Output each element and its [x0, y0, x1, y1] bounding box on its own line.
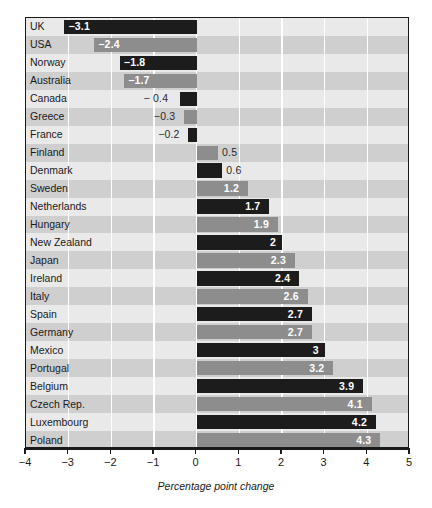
x-tick — [195, 448, 197, 454]
bar — [197, 433, 380, 447]
value-label: −3.1 — [68, 21, 90, 32]
bar-chart-figure: UKUSANorwayAustraliaCanadaGreeceFranceFi… — [0, 0, 432, 508]
value-label: 0.5 — [222, 147, 237, 158]
bar — [197, 146, 218, 160]
x-tick — [366, 448, 368, 454]
category-label: Netherlands — [30, 201, 87, 212]
value-label: 2.7 — [288, 309, 303, 320]
bar — [197, 181, 248, 195]
category-label: France — [30, 129, 63, 140]
category-label: Italy — [30, 291, 49, 302]
value-label: −1.7 — [128, 75, 150, 86]
x-tick-label: 0 — [193, 456, 199, 468]
category-label: UK — [30, 21, 45, 32]
value-label: −1.8 — [124, 57, 146, 68]
x-tick-label: −1 — [147, 456, 160, 468]
row-band — [26, 108, 408, 126]
x-tick-label: 3 — [321, 456, 327, 468]
value-label: 3.9 — [339, 381, 354, 392]
value-label: 2.3 — [271, 255, 286, 266]
row-band — [26, 54, 408, 72]
value-label: 3.2 — [309, 363, 324, 374]
category-label: Canada — [30, 93, 67, 104]
gridline — [367, 18, 369, 447]
category-label: Mexico — [30, 345, 63, 356]
x-tick — [323, 448, 325, 454]
row-band — [26, 36, 408, 54]
value-label: 4.2 — [352, 417, 367, 428]
x-tick-label: −4 — [19, 456, 32, 468]
x-tick-label: −3 — [61, 456, 74, 468]
row-band — [26, 90, 408, 108]
value-label: 2.4 — [275, 273, 290, 284]
x-tick-label: 2 — [278, 456, 284, 468]
category-label: Spain — [30, 309, 57, 320]
category-label: Czech Rep. — [30, 399, 85, 410]
category-label: Greece — [30, 111, 64, 122]
value-label: 2.7 — [288, 327, 303, 338]
value-label: −2.4 — [98, 39, 120, 50]
value-label: − 0.4 — [144, 93, 169, 104]
x-tick — [238, 448, 240, 454]
x-axis-line — [25, 448, 409, 450]
x-tick-label: 5 — [406, 456, 412, 468]
value-label: 0.6 — [226, 165, 241, 176]
value-label: 2 — [270, 237, 276, 248]
value-label: 3 — [313, 345, 319, 356]
value-label: 2.6 — [284, 291, 299, 302]
value-label: 4.1 — [348, 399, 363, 410]
value-label: 1.7 — [245, 201, 260, 212]
value-label: −0.3 — [154, 111, 176, 122]
x-tick-label: −2 — [104, 456, 117, 468]
category-label: Portugal — [30, 363, 69, 374]
category-label: Norway — [30, 57, 66, 68]
bar — [180, 92, 197, 106]
bar — [197, 415, 376, 429]
category-label: Hungary — [30, 219, 70, 230]
x-tick — [408, 448, 410, 454]
value-label: −0.2 — [158, 129, 180, 140]
bar — [197, 163, 223, 177]
x-tick-label: 1 — [235, 456, 241, 468]
x-tick-label: 4 — [363, 456, 369, 468]
category-label: Japan — [30, 255, 59, 266]
x-tick — [67, 448, 69, 454]
value-label: 1.2 — [224, 183, 239, 194]
x-tick — [280, 448, 282, 454]
gridline — [111, 18, 113, 447]
category-label: Sweden — [30, 183, 68, 194]
category-label: Germany — [30, 327, 73, 338]
row-band — [26, 126, 408, 144]
category-label: Poland — [30, 435, 63, 446]
bar — [188, 128, 197, 142]
category-label: Finland — [30, 147, 64, 158]
value-label: 1.9 — [254, 219, 269, 230]
x-axis-title: Percentage point change — [0, 480, 432, 492]
category-label: USA — [30, 39, 52, 50]
bar — [184, 110, 197, 124]
category-label: Ireland — [30, 273, 62, 284]
x-tick — [24, 448, 26, 454]
bar — [197, 397, 372, 411]
category-label: Australia — [30, 75, 71, 86]
row-band — [26, 72, 408, 90]
x-tick — [110, 448, 112, 454]
plot-area: UKUSANorwayAustraliaCanadaGreeceFranceFi… — [25, 17, 409, 448]
category-label: Belgium — [30, 381, 68, 392]
category-label: Denmark — [30, 165, 73, 176]
bar — [197, 343, 325, 357]
category-label: Luxembourg — [30, 417, 88, 428]
value-label: 4.3 — [356, 435, 371, 446]
x-tick — [152, 448, 154, 454]
category-label: New Zealand — [30, 237, 92, 248]
